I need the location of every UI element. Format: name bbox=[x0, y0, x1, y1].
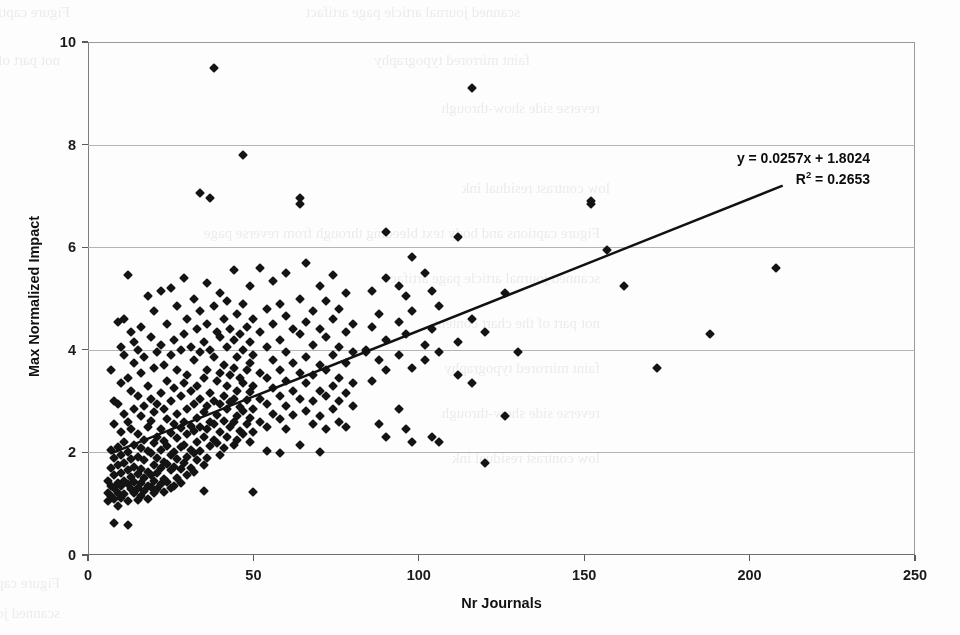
trendline-layer bbox=[0, 0, 960, 635]
scatter-chart: 0246810 050100150200250 Nr Journals Max … bbox=[0, 0, 960, 635]
regression-trendline bbox=[111, 186, 783, 454]
r-squared-value: = 0.2653 bbox=[811, 171, 870, 187]
trendline-equation-annotation: y = 0.0257x + 1.8024 R2 = 0.2653 bbox=[620, 148, 870, 189]
x-axis-title: Nr Journals bbox=[461, 595, 542, 611]
regression-equation-text: y = 0.0257x + 1.8024 bbox=[620, 148, 870, 168]
r-squared-text: R2 = 0.2653 bbox=[620, 168, 870, 189]
r-squared-symbol: R bbox=[796, 171, 806, 187]
y-axis-title: Max Normalized Impact bbox=[26, 215, 42, 376]
scanned-page: Figure captions and body text bleeding t… bbox=[0, 0, 960, 635]
